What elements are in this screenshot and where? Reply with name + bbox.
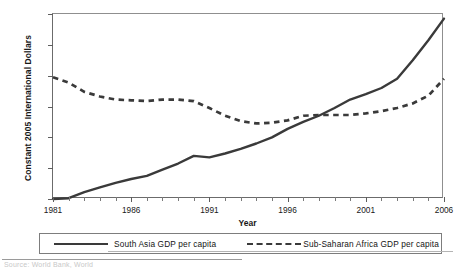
x-tick-minor [413, 197, 414, 201]
legend-entry-south-asia: South Asia GDP per capita [54, 239, 216, 249]
x-tick-label: 1986 [108, 205, 154, 215]
x-tick-minor [147, 197, 148, 201]
x-tick-minor [272, 197, 273, 201]
y-axis-title: Constant 2005 International Dollars [23, 23, 33, 193]
x-tick-minor [319, 197, 320, 201]
x-tick-minor [256, 197, 257, 201]
x-tick-minor [397, 197, 398, 201]
x-tick-major [444, 197, 445, 202]
x-tick-label: 2006 [421, 205, 458, 215]
x-tick-minor [303, 197, 304, 201]
x-tick-minor [428, 197, 429, 201]
legend-label-south-asia: South Asia GDP per capita [114, 239, 216, 249]
x-tick-minor [84, 197, 85, 201]
x-tick-minor [194, 197, 195, 201]
x-tick-major [131, 197, 132, 202]
x-tick-label: 1981 [30, 205, 76, 215]
source-note-clipped: Source: World Bank, World [4, 261, 254, 269]
legend-label-sub-saharan-africa: Sub-Saharan Africa GDP per capita [303, 239, 439, 249]
x-tick-major [366, 197, 367, 202]
y-tick [48, 76, 53, 77]
x-tick-minor [162, 197, 163, 201]
y-tick [48, 137, 53, 138]
x-tick-minor [225, 197, 226, 201]
plot-area: 9001,1001,3001,5001,7001,9002,100 198119… [52, 13, 443, 198]
x-axis-title: Year [52, 218, 443, 228]
x-tick-minor [335, 197, 336, 201]
series-layer [53, 14, 444, 199]
y-tick [48, 45, 53, 46]
x-tick-major [288, 197, 289, 202]
x-tick-minor [241, 197, 242, 201]
x-tick-label: 2001 [343, 205, 389, 215]
legend-swatch-dashed-line-icon [247, 243, 301, 245]
x-tick-minor [69, 197, 70, 201]
y-tick [48, 14, 53, 15]
scan-artifact-rule-lower [2, 259, 242, 260]
y-tick [48, 168, 53, 169]
x-tick-minor [350, 197, 351, 201]
series-line-sub-saharan-africa [53, 77, 444, 123]
x-tick-minor [100, 197, 101, 201]
legend-entry-sub-saharan-africa: Sub-Saharan Africa GDP per capita [247, 239, 439, 249]
series-line-south-asia [53, 19, 444, 199]
x-tick-label: 1991 [186, 205, 232, 215]
y-tick [48, 107, 53, 108]
scan-artifact-rule-upper [108, 251, 453, 252]
x-tick-minor [381, 197, 382, 201]
x-tick-minor [116, 197, 117, 201]
legend-swatch-solid-line-icon [54, 243, 108, 245]
x-tick-minor [178, 197, 179, 201]
x-tick-label: 1996 [265, 205, 311, 215]
x-tick-major [209, 197, 210, 202]
x-tick-major [53, 197, 54, 202]
